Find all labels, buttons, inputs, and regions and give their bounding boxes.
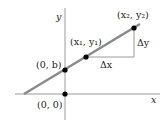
origin-label: (0, 0) (37, 99, 63, 110)
point-2 (131, 25, 136, 30)
delta-x-label: Δx (100, 59, 113, 70)
slope-diagram: y x (0, 0) (0, b) (x₁, y₁) (x₂, y₂) Δx Δ… (0, 0, 166, 129)
x-axis-label: x (151, 94, 157, 105)
point-2-label: (x₂, y₂) (117, 9, 149, 20)
y-axis-label: y (55, 11, 62, 22)
delta-y-label: Δy (137, 37, 150, 48)
intercept-point (62, 67, 67, 72)
origin-point (62, 91, 67, 96)
point-1 (83, 54, 88, 59)
point-1-label: (x₁, y₁) (70, 36, 102, 47)
intercept-label: (0, b) (36, 59, 62, 70)
